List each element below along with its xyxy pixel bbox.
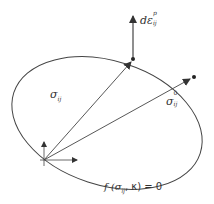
eq-rest: , κ) = 0	[125, 181, 162, 192]
strain-base: dε	[140, 14, 153, 27]
yield-surface-diagram	[0, 0, 214, 204]
eq-prefix: f (	[104, 181, 115, 192]
stress0-point	[192, 75, 196, 79]
eq-sigma: σ	[115, 181, 122, 192]
stress-vector-sigma-ij	[44, 62, 131, 160]
stress-vector-sigma0-ij	[44, 79, 190, 160]
sigma-subscript: ij	[58, 95, 62, 102]
sigma0-base: σ	[166, 95, 174, 108]
sigma-base: σ	[50, 88, 58, 101]
sigma0-superscript: 0	[174, 90, 178, 96]
sigma0-ij-label: σ0ij	[166, 95, 180, 107]
yield-function-equation: f (σij, κ) = 0	[104, 181, 162, 194]
strain-subscript: ij	[153, 20, 157, 26]
strain-increment-label: dεpij	[140, 14, 161, 26]
yield-surface-ellipse	[0, 34, 214, 204]
strain-superscript: p	[153, 10, 157, 16]
sigma0-subscript: ij	[174, 101, 178, 107]
sigma-ij-label: σij	[50, 89, 61, 102]
